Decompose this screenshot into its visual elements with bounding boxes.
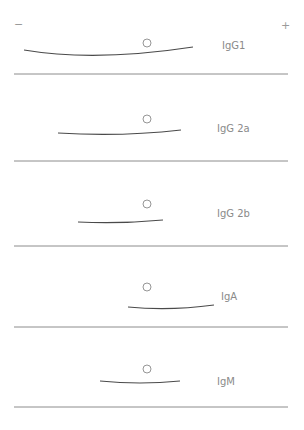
precipitin-arc xyxy=(78,220,163,223)
precipitin-arc xyxy=(58,130,181,134)
lane: IgG 2a xyxy=(14,115,288,161)
precipitin-arc xyxy=(128,305,214,309)
lane: IgA xyxy=(14,283,288,327)
lane: IgG1 xyxy=(14,39,288,74)
lane-label: IgM xyxy=(217,376,235,387)
positive-pole-label: + xyxy=(281,19,290,32)
immunoelectrophoresis-diagram: − + IgG1IgG 2aIgG 2bIgAIgM xyxy=(0,0,304,430)
sample-well-icon xyxy=(143,115,151,123)
negative-pole-label: − xyxy=(14,18,23,31)
lane-label: IgG 2a xyxy=(217,123,250,134)
lanes-group: IgG1IgG 2aIgG 2bIgAIgM xyxy=(14,39,288,407)
lane: IgM xyxy=(14,365,288,407)
lane: IgG 2b xyxy=(14,200,288,246)
sample-well-icon xyxy=(143,365,151,373)
sample-well-icon xyxy=(143,39,151,47)
lane-label: IgG 2b xyxy=(217,208,250,219)
sample-well-icon xyxy=(143,283,151,291)
precipitin-arc xyxy=(24,47,193,55)
lane-label: IgA xyxy=(221,291,237,302)
precipitin-arc xyxy=(100,381,180,383)
diagram-canvas: − + IgG1IgG 2aIgG 2bIgAIgM xyxy=(0,0,304,430)
sample-well-icon xyxy=(143,200,151,208)
lane-label: IgG1 xyxy=(222,40,245,51)
